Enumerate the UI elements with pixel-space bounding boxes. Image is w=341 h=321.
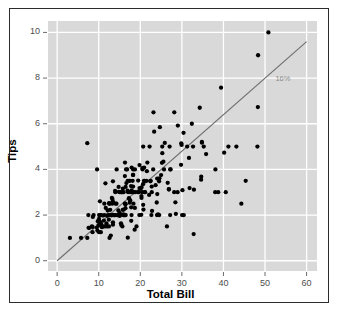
data-point <box>145 160 149 164</box>
x-tick-label: 10 <box>84 278 114 288</box>
data-point <box>192 188 196 192</box>
data-point <box>160 151 164 155</box>
data-point <box>150 184 154 188</box>
data-point <box>123 185 127 189</box>
data-point <box>123 160 127 164</box>
x-axis-title: Total Bill <box>0 288 341 300</box>
data-point <box>174 212 178 216</box>
data-point <box>85 141 89 145</box>
data-point <box>123 206 127 210</box>
data-point <box>120 190 124 194</box>
data-point <box>266 30 270 34</box>
data-point <box>95 167 99 171</box>
data-point <box>176 123 180 127</box>
x-tick-label: 40 <box>208 278 238 288</box>
data-point <box>160 144 164 148</box>
figure-container: Total Bill Tips 0102030405060024681016% <box>0 0 341 321</box>
data-point <box>97 213 101 217</box>
data-point <box>155 200 159 204</box>
data-point <box>131 173 135 177</box>
data-point <box>141 203 145 207</box>
data-point <box>219 86 223 90</box>
data-point <box>111 179 115 183</box>
data-point <box>103 181 107 185</box>
data-point <box>216 190 220 194</box>
data-point <box>136 178 140 182</box>
data-point <box>145 169 149 173</box>
data-point <box>213 167 217 171</box>
data-point <box>239 202 243 206</box>
x-tick-label: 60 <box>292 278 322 288</box>
data-point <box>155 213 159 217</box>
data-point <box>130 179 134 183</box>
data-point <box>127 196 131 200</box>
data-point <box>87 226 91 230</box>
data-point <box>187 156 191 160</box>
data-point <box>129 205 133 209</box>
data-point <box>155 192 159 196</box>
data-point <box>165 224 169 228</box>
data-point <box>148 179 152 183</box>
y-tick-label: 8 <box>16 72 40 82</box>
data-point <box>168 167 172 171</box>
chart-canvas <box>0 0 341 321</box>
data-point <box>123 202 127 206</box>
data-point <box>255 144 259 148</box>
data-point <box>224 190 228 194</box>
data-point <box>86 213 90 217</box>
data-point <box>139 194 143 198</box>
data-point <box>123 174 127 178</box>
data-point <box>168 213 172 217</box>
data-point <box>180 188 184 192</box>
data-point <box>107 236 111 240</box>
data-point <box>173 200 177 204</box>
data-point <box>198 106 202 110</box>
data-point <box>109 213 113 217</box>
data-point <box>90 230 94 234</box>
data-point <box>141 144 145 148</box>
data-point <box>226 144 230 148</box>
data-point <box>100 225 104 229</box>
data-point <box>167 144 171 148</box>
data-point <box>141 207 145 211</box>
data-point <box>199 175 203 179</box>
scatter-plot: Total Bill Tips 0102030405060024681016% <box>0 0 341 321</box>
data-point <box>150 209 154 213</box>
y-tick-label: 6 <box>16 118 40 128</box>
data-point <box>131 184 135 188</box>
data-point <box>234 144 238 148</box>
data-point <box>256 105 260 109</box>
data-point <box>166 181 170 185</box>
data-point <box>133 206 137 210</box>
data-point <box>181 131 185 135</box>
data-point <box>160 161 164 165</box>
data-point <box>129 219 133 223</box>
data-point <box>256 53 260 57</box>
data-point <box>179 163 183 167</box>
data-point <box>133 228 137 232</box>
y-tick-label: 4 <box>16 163 40 173</box>
y-tick-label: 2 <box>16 209 40 219</box>
x-tick-label: 30 <box>167 278 197 288</box>
data-point <box>162 167 166 171</box>
data-point <box>157 179 161 183</box>
data-point <box>129 213 133 217</box>
data-point <box>140 167 144 171</box>
data-point <box>190 122 194 126</box>
x-tick-label: 20 <box>125 278 155 288</box>
data-point <box>128 190 132 194</box>
data-point <box>131 202 135 206</box>
data-point <box>119 212 123 216</box>
data-point <box>163 141 167 145</box>
data-point <box>113 190 117 194</box>
data-point <box>172 110 176 114</box>
data-point <box>202 144 206 148</box>
data-point <box>187 186 191 190</box>
data-point <box>191 144 195 148</box>
data-point <box>151 167 155 171</box>
data-point <box>159 173 163 177</box>
data-point <box>147 144 151 148</box>
data-point <box>179 141 183 145</box>
data-point <box>111 223 115 227</box>
data-point <box>192 232 196 236</box>
